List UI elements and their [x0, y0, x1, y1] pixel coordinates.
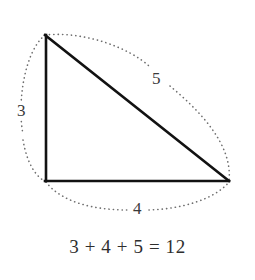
- dotted-arc-left-side-lower: [23, 140, 46, 182]
- side-label-bottom: 4: [130, 199, 145, 218]
- dotted-arc-hypotenuse-upper: [45, 34, 150, 67]
- perimeter-equation: 3 + 4 + 5 = 12: [0, 236, 255, 258]
- triangle-side-hypotenuse: [45, 35, 229, 181]
- side-label-hypotenuse: 5: [149, 69, 164, 88]
- dotted-arc-bottom-side-left: [46, 182, 127, 210]
- dotted-arc-hypotenuse-lower: [170, 86, 229, 181]
- side-label-left: 3: [14, 101, 29, 120]
- figure-container: 3 4 5 3 + 4 + 5 = 12: [0, 0, 255, 280]
- dotted-arc-bottom-side-right: [149, 182, 229, 210]
